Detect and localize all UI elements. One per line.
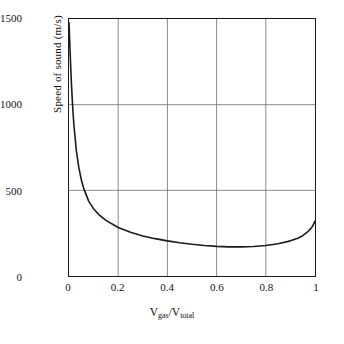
x-axis-title-sub-gas: gas	[158, 311, 169, 320]
y-tick-label-500: 500	[0, 185, 22, 197]
y-tick-label-1500: 1500	[0, 12, 22, 24]
x-tick-label-0-8: 0.8	[251, 281, 281, 293]
data-curve	[69, 19, 315, 276]
x-tick-label-0-4: 0.4	[152, 281, 182, 293]
x-tick-label-0-2: 0.2	[103, 281, 133, 293]
x-tick-label-0-6: 0.6	[202, 281, 232, 293]
y-tick-label-0: 0	[0, 271, 22, 283]
x-tick-label-1: 1	[301, 281, 331, 293]
x-axis-title: Vgas/Vtotal	[0, 306, 344, 318]
y-axis-title-text: Speed of sound	[51, 42, 63, 113]
y-tick-label-1000: 1000	[0, 98, 22, 110]
x-tick-label-0: 0	[53, 281, 83, 293]
y-axis-title: Speed of sound (m/s)	[51, 0, 63, 159]
x-axis-title-sub-total: total	[180, 311, 194, 320]
plot-area	[68, 18, 316, 277]
x-axis-title-main: V	[150, 306, 158, 318]
x-axis-title-slash: /V	[169, 306, 181, 318]
y-axis-units-text: (m/s)	[51, 15, 63, 39]
chart-figure: Speed of sound (m/s) 1500 1000 500 0 0 0…	[0, 0, 344, 344]
